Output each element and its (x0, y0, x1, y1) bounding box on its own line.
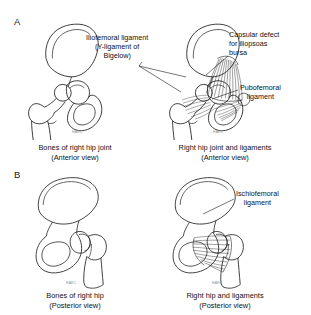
label-ischiofemoral-line1: Ischiofemoral (236, 189, 279, 198)
pubofemoral-ligament-fibers (214, 100, 242, 121)
caption-a-left-line2: (Anterior view) (10, 153, 140, 163)
label-capsular-line1: Capsular defect (229, 30, 279, 39)
label-capsular-line2: for iliopsoas (229, 39, 267, 48)
caption-a-right-line2: (Anterior view) (152, 153, 298, 163)
label-pubofemoral-line2: ligament (247, 92, 274, 101)
label-ischiofemoral-ligament: Ischiofemoral ligament (236, 189, 279, 207)
illustration-bones-right-hip-posterior (36, 178, 106, 289)
caption-right-hip-joint-and-ligaments-anterior: Right hip joint and ligaments (Anterior … (152, 143, 298, 162)
label-iliofemoral-line3: Bigelow) (103, 51, 131, 60)
artist-signature: HARC (66, 281, 76, 285)
caption-bones-right-hip-joint-anterior: Bones of right hip joint (Anterior view) (10, 143, 140, 162)
artist-signature: HARC (72, 130, 82, 134)
artist-signature: HARC (213, 130, 223, 134)
panel-letter-a: A (14, 16, 21, 27)
label-iliofemoral-line1: Iliofemoral ligament (86, 33, 148, 42)
caption-right-hip-and-ligaments-posterior: Right hip and ligaments (Posterior view) (152, 291, 298, 310)
label-capsular-line3: bursa (229, 48, 247, 57)
leader-lines (139, 56, 238, 214)
panel-letter-b: B (14, 169, 21, 180)
caption-b-right-line2: (Posterior view) (152, 301, 298, 311)
caption-a-left-line1: Bones of right hip joint (38, 143, 111, 152)
label-ischiofemoral-line2: ligament (244, 198, 271, 207)
label-capsular-defect: Capsular defect for iliopsoas bursa (229, 30, 279, 58)
caption-bones-right-hip-posterior: Bones of right hip (Posterior view) (10, 291, 140, 310)
label-iliofemoral-ligament: Iliofemoral ligament (Y-ligament of Bige… (86, 33, 148, 61)
label-pubofemoral-ligament: Pubofemoral ligament (240, 83, 281, 101)
caption-b-left-line2: (Posterior view) (10, 301, 140, 311)
ischiofemoral-ligament-fibers (193, 236, 232, 272)
caption-b-left-line1: Bones of right hip (46, 291, 104, 300)
illustration-right-hip-and-ligaments-posterior (173, 178, 243, 289)
label-iliofemoral-line2: (Y-ligament of (95, 42, 139, 51)
artist-signature: HARC (212, 281, 222, 285)
caption-b-right-line1: Right hip and ligaments (186, 291, 263, 300)
anatomy-figure: A B Iliofemoral ligament (Y-ligament of … (0, 0, 311, 315)
caption-a-right-line1: Right hip joint and ligaments (179, 143, 272, 152)
label-pubofemoral-line1: Pubofemoral (240, 83, 281, 92)
